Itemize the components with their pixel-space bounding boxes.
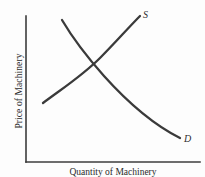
supply-demand-chart: S D Price of Machinery Quantity of Machi… bbox=[0, 0, 205, 177]
x-axis-label: Quantity of Machinery bbox=[26, 167, 200, 177]
chart-plot-area bbox=[0, 0, 205, 177]
y-axis-label: Price of Machinery bbox=[14, 35, 24, 147]
demand-curve-label: D bbox=[184, 134, 191, 144]
supply-curve bbox=[43, 16, 140, 103]
demand-curve bbox=[62, 20, 180, 138]
supply-curve-label: S bbox=[143, 10, 148, 20]
